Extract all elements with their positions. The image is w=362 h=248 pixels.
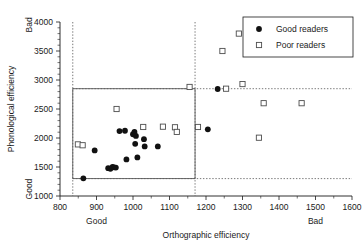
x-tick-label: 1600 (343, 202, 362, 212)
y-tick-label: 3000 (34, 75, 53, 85)
data-point-poor-readers (80, 143, 85, 148)
data-point-poor-readers (160, 124, 165, 129)
chart-canvas: 8009001000110012001300140015001600100015… (0, 0, 362, 248)
x-tick-label: 1100 (160, 202, 179, 212)
data-point-good-readers (142, 144, 148, 150)
y-tick-label: 4000 (34, 17, 53, 27)
data-point-good-readers (80, 175, 86, 181)
legend-label-good-readers: Good readers (276, 24, 328, 34)
legend-box (243, 17, 353, 57)
y-tick-label: 1000 (34, 191, 53, 201)
data-point-poor-readers (299, 101, 304, 106)
x-tick-label: 1000 (124, 202, 143, 212)
data-point-poor-readers (240, 81, 245, 86)
data-point-poor-readers (236, 31, 241, 36)
y-tick-label: 3500 (34, 46, 53, 56)
data-point-poor-readers (220, 48, 225, 53)
data-point-good-readers (155, 144, 161, 150)
data-point-good-readers (122, 128, 128, 134)
y-axis-pole-bad: Bad (24, 17, 34, 32)
data-point-good-readers (134, 155, 140, 161)
data-point-poor-readers (256, 135, 261, 140)
legend-marker-good-readers (256, 26, 262, 32)
data-point-good-readers (92, 148, 98, 154)
x-axis-pole-good: Good (86, 216, 107, 226)
data-point-poor-readers (195, 124, 200, 129)
y-tick-label: 2500 (34, 104, 53, 114)
x-tick-label: 1200 (197, 202, 216, 212)
x-tick-label: 1300 (233, 202, 252, 212)
scatter-plot-figure: 8009001000110012001300140015001600100015… (0, 0, 362, 248)
data-point-good-readers (132, 141, 138, 147)
data-point-good-readers (205, 126, 211, 132)
y-tick-label: 1500 (34, 162, 53, 172)
x-tick-label: 800 (53, 202, 67, 212)
data-point-good-readers (124, 157, 130, 163)
data-point-good-readers (113, 165, 119, 171)
data-point-good-readers (141, 136, 147, 142)
x-tick-label: 900 (89, 202, 103, 212)
data-point-good-readers (117, 128, 123, 134)
data-point-poor-readers (114, 106, 119, 111)
y-axis-pole-good: Good (24, 178, 34, 199)
x-axis-title: Orthographic efficiency (163, 230, 251, 240)
data-point-poor-readers (261, 101, 266, 106)
legend-marker-poor-readers (256, 42, 261, 47)
legend-label-poor-readers: Poor readers (276, 40, 325, 50)
x-tick-label: 1500 (306, 202, 325, 212)
x-axis-pole-bad: Bad (308, 216, 323, 226)
data-point-poor-readers (187, 84, 192, 89)
data-point-poor-readers (141, 124, 146, 129)
data-point-poor-readers (174, 129, 179, 134)
data-point-good-readers (133, 133, 139, 139)
data-point-poor-readers (223, 86, 228, 91)
data-point-good-readers (215, 86, 221, 92)
y-tick-label: 2000 (34, 133, 53, 143)
y-axis-title: Phonological efficiency (6, 65, 16, 152)
x-tick-label: 1400 (270, 202, 289, 212)
